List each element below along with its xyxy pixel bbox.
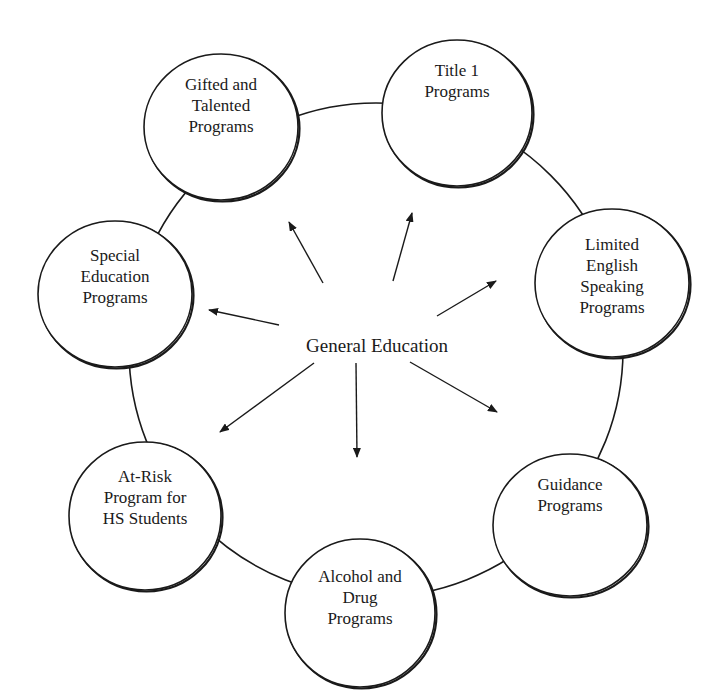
arrow-to-at-risk — [220, 363, 314, 432]
node-label-line: Gifted and — [185, 75, 258, 94]
node-label: Gifted andTalentedPrograms — [185, 75, 258, 136]
program-diagram: Gifted andTalentedProgramsTitle 1Program… — [0, 0, 722, 692]
node-label-line: Programs — [579, 298, 644, 317]
node-label-line: Speaking — [580, 277, 644, 296]
node-label-line: English — [586, 256, 638, 275]
node-label-line: Programs — [82, 288, 147, 307]
node-label-line: Special — [90, 246, 140, 265]
node-label-line: HS Students — [103, 509, 188, 528]
arrow-to-special-education — [209, 310, 279, 325]
arrow-to-alcohol-drug — [356, 363, 357, 457]
arrow-to-gifted — [289, 222, 323, 283]
program-nodes: Gifted andTalentedProgramsTitle 1Program… — [38, 40, 691, 689]
node-alcohol-drug: Alcohol andDrugPrograms — [285, 539, 437, 689]
node-label-line: Programs — [537, 496, 602, 515]
node-label-line: Drug — [343, 588, 378, 607]
node-guidance: GuidancePrograms — [493, 454, 649, 598]
node-label-line: Alcohol and — [318, 567, 402, 586]
arrow-to-title1 — [393, 213, 412, 281]
node-label: SpecialEducationPrograms — [81, 246, 150, 307]
node-limited-english: LimitedEnglishSpeakingPrograms — [535, 209, 691, 359]
node-label-line: Programs — [188, 117, 253, 136]
node-label-line: At-Risk — [118, 467, 172, 486]
diagram-canvas: Gifted andTalentedProgramsTitle 1Program… — [0, 0, 722, 692]
node-label-line: Programs — [327, 609, 392, 628]
node-label-line: Limited — [585, 235, 639, 254]
node-label-line: Title 1 — [435, 61, 479, 80]
arrow-to-limited-english — [437, 281, 496, 316]
node-label-line: Talented — [192, 96, 251, 115]
node-label-line: Education — [81, 267, 150, 286]
node-gifted: Gifted andTalentedPrograms — [144, 54, 300, 202]
node-label-line: Program for — [104, 488, 187, 507]
center-label: General Education — [306, 335, 448, 356]
center-node: General Education — [306, 335, 448, 356]
node-special-education: SpecialEducationPrograms — [38, 221, 194, 369]
node-at-risk: At-RiskProgram forHS Students — [69, 442, 223, 592]
node-label-line: Guidance — [537, 475, 602, 494]
node-title1: Title 1Programs — [382, 40, 534, 188]
node-label-line: Programs — [424, 82, 489, 101]
arrow-to-guidance — [410, 362, 497, 412]
